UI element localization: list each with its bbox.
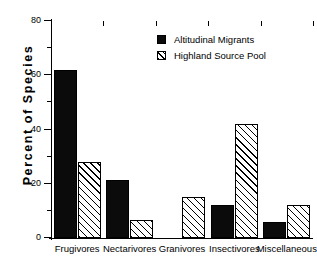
x-axis-label: Granivores — [159, 243, 205, 254]
y-tick-label: 0 — [36, 233, 41, 242]
x-tick — [103, 21, 104, 26]
bar-altitudinal-migrants — [211, 205, 234, 238]
y-tick-major: 0 — [44, 237, 51, 238]
y-tick-label: 80 — [31, 16, 41, 25]
y-tick-label: 20 — [31, 178, 41, 187]
x-tick — [261, 21, 262, 26]
x-axis-label: Miscellaneous — [257, 243, 317, 254]
x-tick — [51, 21, 52, 26]
y-tick-label: 40 — [31, 124, 41, 133]
x-axis-label: Insectivores — [209, 243, 260, 254]
bar-altitudinal-migrants — [106, 180, 129, 238]
legend-label: Altitudinal Migrants — [174, 35, 254, 45]
y-tick-major: 20 — [44, 183, 51, 184]
y-tick-label: 60 — [31, 70, 41, 79]
legend-swatch-hatch-icon — [157, 51, 166, 60]
bar-group — [261, 21, 313, 238]
y-tick-major: 40 — [44, 129, 51, 130]
y-axis-title-container: Percent of Species — [0, 0, 26, 250]
x-axis-line — [49, 238, 313, 239]
x-axis-label: Nectarivores — [103, 243, 156, 254]
bar-highland-source-pool — [130, 220, 153, 238]
bar-highland-source-pool — [78, 162, 101, 238]
x-tick — [208, 21, 209, 26]
y-tick-major: 80 — [44, 20, 51, 21]
bar-chart-figure: Percent of Species 020406080 FrugivoresN… — [0, 0, 317, 270]
chart-legend: Altitudinal MigrantsHighland Source Pool — [157, 33, 266, 65]
bar-altitudinal-migrants — [263, 222, 286, 238]
bar-group — [103, 21, 155, 238]
y-tick-major: 60 — [44, 74, 51, 75]
bar-altitudinal-migrants — [54, 70, 77, 238]
legend-item: Altitudinal Migrants — [157, 33, 266, 46]
x-tick — [313, 21, 314, 26]
x-tick — [156, 21, 157, 26]
x-axis-label: Frugivores — [55, 243, 100, 254]
bar-highland-source-pool — [235, 124, 258, 238]
bar-group — [51, 21, 103, 238]
bar-highland-source-pool — [182, 197, 205, 238]
bar-highland-source-pool — [287, 205, 310, 238]
legend-label: Highland Source Pool — [174, 51, 266, 61]
legend-item: Highland Source Pool — [157, 49, 266, 62]
legend-swatch-solid-icon — [157, 35, 166, 44]
